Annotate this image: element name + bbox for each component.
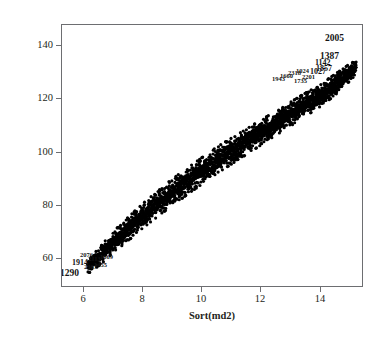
x-tick-label: 10 <box>186 293 216 305</box>
x-tick-mark <box>83 287 84 292</box>
x-tick-mark <box>260 287 261 292</box>
y-tick-mark <box>56 205 61 206</box>
point-index-label: 1290 <box>61 268 79 278</box>
y-tick-label: 80 <box>26 199 53 211</box>
y-tick-label: 120 <box>26 92 53 104</box>
x-tick-mark <box>320 287 321 292</box>
x-tick-label: 6 <box>68 293 98 305</box>
x-tick-label: 14 <box>305 293 335 305</box>
point-index-label: 2005 <box>325 33 344 43</box>
point-index-label: 2307 <box>84 263 97 270</box>
point-index-label: 1669 <box>100 253 113 260</box>
x-tick-mark <box>201 287 202 292</box>
y-tick-mark <box>56 152 61 153</box>
y-tick-mark <box>56 258 61 259</box>
plot-area: 2005138711421857102710242318166019432201… <box>61 24 363 287</box>
y-tick-mark <box>56 45 61 46</box>
x-tick-mark <box>142 287 143 292</box>
x-axis-title: Sort(md2) <box>61 310 363 321</box>
y-tick-mark <box>56 98 61 99</box>
y-tick-label: 140 <box>26 39 53 51</box>
y-tick-label: 100 <box>26 146 53 158</box>
point-index-label: 1735 <box>294 77 307 84</box>
x-tick-label: 8 <box>127 293 157 305</box>
y-tick-label: 60 <box>26 252 53 264</box>
point-index-label: 1943 <box>272 75 285 82</box>
chi-square-qq-plot-figure: 2005138711421857102710242318166019432201… <box>0 0 380 338</box>
x-tick-label: 12 <box>245 293 275 305</box>
